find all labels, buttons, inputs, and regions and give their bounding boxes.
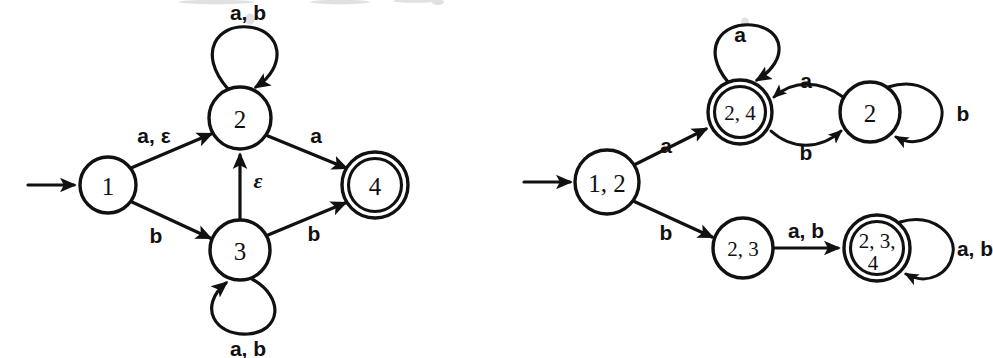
automata-figure-page: 1 2 3 4 a, ε b a, b a ε a, b b	[0, 0, 993, 358]
state-node-1-2-label: 1, 2	[588, 170, 626, 197]
state-node-4-accepting[interactable]: 4	[342, 152, 408, 218]
self-loop-state-3	[212, 279, 275, 334]
edge-2-to-4	[268, 136, 346, 168]
edge-label-12-to-23: b	[660, 221, 673, 244]
edge-label-3-to-4: b	[308, 222, 321, 245]
edge-label-1-to-2: a, ε	[137, 124, 170, 147]
edge-label-3-to-2-epsilon: ε	[253, 168, 262, 193]
edge-3-to-4	[268, 203, 345, 235]
state-node-2-3-4-label-line2: 4	[868, 251, 879, 275]
state-node-1[interactable]: 1	[80, 157, 136, 213]
state-node-2-label: 2	[234, 106, 247, 133]
self-loop-state-2	[212, 27, 277, 89]
state-node-2-4-accepting[interactable]: 2, 4	[708, 80, 772, 144]
edge-label-24-to-2: b	[800, 141, 813, 164]
state-node-2-3-4-label-line1: 2, 3,	[859, 229, 896, 253]
dfa-right-diagram: 1, 2 2, 4 2 2, 3 2, 3, 4	[524, 23, 993, 282]
nfa-left-diagram: 1 2 3 4 a, ε b a, b a ε a, b b	[28, 1, 408, 358]
state-node-2[interactable]: 2	[840, 82, 900, 142]
state-node-3[interactable]: 3	[210, 220, 270, 280]
edge-label-self-loop-234: a, b	[957, 237, 993, 260]
state-node-1-2[interactable]: 1, 2	[575, 150, 639, 214]
self-loop-state-24	[715, 25, 779, 82]
automata-canvas: 1 2 3 4 a, ε b a, b a ε a, b b	[0, 0, 993, 358]
edge-label-self-loop-2: b	[957, 102, 970, 125]
state-node-1-label: 1	[102, 173, 115, 200]
edge-label-2-to-4: a	[310, 124, 322, 147]
state-node-4-label: 4	[369, 173, 382, 200]
edge-label-self-loop-2: a, b	[230, 1, 266, 24]
state-node-2-4-label: 2, 4	[724, 101, 756, 125]
state-node-2-3-4-accepting[interactable]: 2, 3, 4	[844, 215, 910, 281]
edge-label-self-loop-3: a, b	[230, 337, 266, 358]
edge-label-12-to-24: a	[660, 134, 672, 157]
state-node-2[interactable]: 2	[209, 87, 271, 149]
state-node-2-3[interactable]: 2, 3	[713, 218, 773, 278]
edge-label-self-loop-24: a	[734, 23, 746, 46]
state-node-2-label: 2	[864, 100, 877, 127]
state-node-2-3-label: 2, 3	[727, 237, 759, 261]
edge-1-to-3	[132, 202, 210, 238]
edge-label-23-to-234: a, b	[788, 219, 824, 242]
edge-label-2-to-24: a	[800, 69, 812, 92]
edge-label-1-to-3: b	[150, 224, 163, 247]
state-node-3-label: 3	[234, 238, 247, 265]
